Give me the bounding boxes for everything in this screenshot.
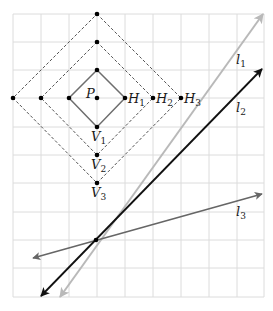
label-H2: H2: [155, 91, 173, 108]
label-V3: V3: [91, 185, 106, 202]
line-l3: [33, 194, 262, 258]
point-P: [95, 96, 100, 101]
label-l2: l2: [236, 100, 246, 117]
geometry-diagram: P H1 H2 H3 V1 V2 V3 l1 l2 l3: [0, 0, 273, 311]
label-V1: V1: [91, 129, 106, 146]
intersection-point: [94, 238, 99, 243]
label-V2: V2: [91, 157, 106, 174]
label-H3: H3: [183, 91, 201, 108]
label-l1: l1: [236, 52, 246, 69]
label-H1: H1: [127, 91, 145, 108]
label-P: P: [85, 86, 95, 101]
grid: [13, 14, 264, 297]
label-l3: l3: [236, 204, 246, 221]
